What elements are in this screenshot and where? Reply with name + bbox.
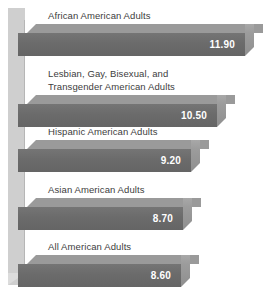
bar-3d: 9.20 bbox=[18, 140, 200, 172]
bar-3d: 11.90 bbox=[18, 24, 254, 56]
bar-end-cap bbox=[191, 140, 200, 172]
bar-category-label: Hispanic American Adults bbox=[48, 126, 158, 139]
bar-category-label: Lesbian, Gay, Bisexual, and Transgender … bbox=[48, 68, 175, 93]
bar-end-cap bbox=[183, 198, 192, 230]
bar-value-label: 10.50 bbox=[18, 104, 207, 127]
bar-value-label: 8.60 bbox=[18, 264, 171, 287]
bar-value-label: 8.70 bbox=[18, 207, 173, 230]
bar-rows: African American Adults11.90Lesbian, Gay… bbox=[0, 0, 271, 296]
bar-end-cap bbox=[245, 24, 254, 56]
bar-3d: 8.70 bbox=[18, 198, 192, 230]
bar-value-label: 11.90 bbox=[18, 33, 235, 56]
bar-3d: 8.60 bbox=[18, 255, 190, 287]
bar-top-face bbox=[27, 140, 209, 149]
bar-chart: African American Adults11.90Lesbian, Gay… bbox=[0, 0, 271, 296]
bar-category-label: All American Adults bbox=[48, 241, 131, 254]
bar-top-face bbox=[27, 24, 263, 33]
bar-end-cap bbox=[217, 95, 226, 127]
bar-category-label: African American Adults bbox=[48, 10, 151, 23]
bar-end-cap bbox=[181, 255, 190, 287]
bar-category-label: Asian American Adults bbox=[48, 184, 145, 197]
bar-top-face bbox=[27, 95, 235, 104]
bar-value-label: 9.20 bbox=[18, 149, 181, 172]
bar-top-face bbox=[27, 255, 199, 264]
bar-3d: 10.50 bbox=[18, 95, 226, 127]
bar-top-face bbox=[27, 198, 201, 207]
